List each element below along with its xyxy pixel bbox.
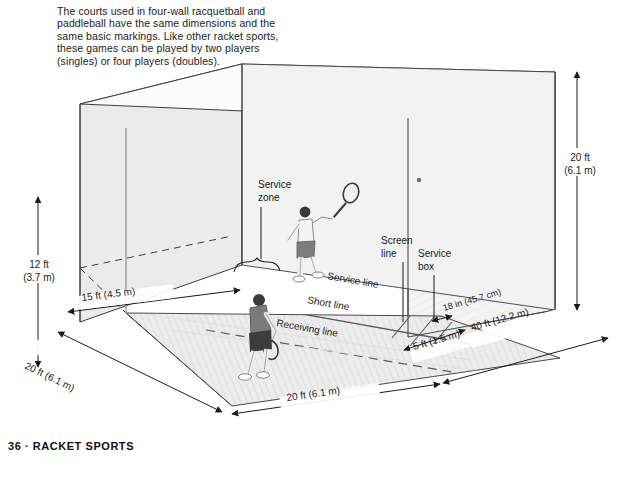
service-box-label-line2: box: [418, 261, 434, 272]
page-footer: 36 · RACKET SPORTS: [8, 440, 134, 452]
dim-front-height-ft: 20 ft: [570, 152, 590, 163]
service-box-label-line1: Service: [418, 248, 452, 259]
dim-front-height-m: (6.1 m): [564, 165, 596, 176]
page-canvas: The courts used in four-wall racquetball…: [0, 0, 630, 493]
dim-back-height-m: (3.7 m): [23, 272, 55, 283]
service-zone-label-line1: Service: [258, 179, 292, 190]
racquetball-court-diagram: Service zone Screen line Service box Ser…: [0, 0, 630, 493]
screen-line-label-line2: line: [381, 248, 397, 259]
short-line-label: Short line: [307, 294, 351, 312]
screen-line-label-line1: Screen: [381, 235, 413, 246]
ball: [417, 178, 421, 182]
service-zone-label-line2: zone: [258, 192, 280, 203]
service-box-divider-left: [265, 288, 290, 318]
dim-back-height-ft: 12 ft: [29, 259, 49, 270]
